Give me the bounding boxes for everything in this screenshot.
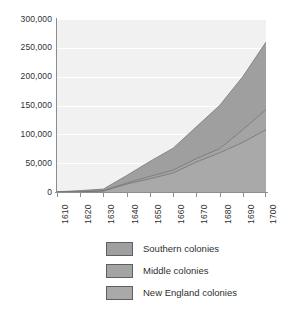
x-tick-label: 1700	[269, 204, 278, 224]
y-axis-line	[56, 18, 57, 193]
x-axis: 1610162016301640165016601670168016901700	[57, 198, 266, 230]
x-tick-label: 1670	[200, 204, 209, 224]
legend-label: Southern colonies	[143, 243, 219, 254]
y-tick-label: 250,000	[0, 43, 52, 52]
x-tick-label: 1650	[154, 204, 163, 224]
y-tick-label: 200,000	[0, 72, 52, 81]
y-tick-label: 100,000	[0, 130, 52, 139]
legend-label: New England colonies	[143, 287, 237, 298]
y-axis: 050,000100,000150,000200,000250,000300,0…	[0, 14, 52, 192]
legend-swatch	[106, 242, 133, 256]
x-tick	[173, 193, 174, 197]
stacked-area-chart-figure: 050,000100,000150,000200,000250,000300,0…	[0, 0, 288, 311]
x-tick-label: 1620	[84, 204, 93, 224]
plot-block: 050,000100,000150,000200,000250,000300,0…	[0, 14, 288, 210]
x-tick	[196, 193, 197, 197]
area-series-svg	[57, 19, 266, 192]
legend-item: New England colonies	[106, 284, 237, 301]
x-tick	[80, 193, 81, 197]
x-tick-label: 1640	[131, 204, 140, 224]
x-tick	[150, 193, 151, 197]
y-tick-label: 0	[0, 188, 52, 197]
legend-label: Middle colonies	[143, 265, 208, 276]
x-axis-ticks	[57, 193, 266, 197]
x-tick-label: 1660	[177, 204, 186, 224]
x-tick-label: 1610	[61, 204, 70, 224]
x-tick	[243, 193, 244, 197]
y-tick-label: 300,000	[0, 15, 52, 24]
x-tick-label: 1690	[247, 204, 256, 224]
x-tick	[57, 193, 58, 197]
x-tick-label: 1680	[224, 204, 233, 224]
chart-legend: Southern coloniesMiddle coloniesNew Engl…	[106, 240, 286, 306]
legend-swatch	[106, 286, 133, 300]
y-tick-label: 150,000	[0, 101, 52, 110]
legend-item: Middle colonies	[106, 262, 208, 279]
x-tick-label: 1630	[107, 204, 116, 224]
legend-item: Southern colonies	[106, 240, 219, 257]
x-tick	[220, 193, 221, 197]
x-tick	[103, 193, 104, 197]
y-tick-label: 50,000	[0, 159, 52, 168]
x-tick	[265, 193, 266, 197]
plot-area	[57, 19, 266, 192]
legend-swatch	[106, 264, 133, 278]
x-tick	[127, 193, 128, 197]
